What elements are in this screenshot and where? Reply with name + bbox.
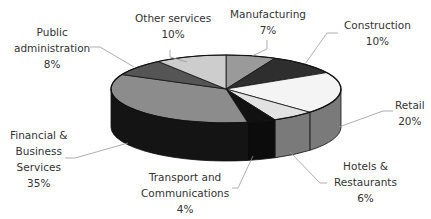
label-hotels-restaurants: Hotels & Restaurants 6%: [334, 158, 397, 206]
label-pct: 7%: [230, 22, 306, 38]
label-text: Communications: [141, 185, 229, 201]
label-pct: 35%: [10, 175, 68, 191]
label-text: Financial &: [10, 127, 68, 143]
label-text: Restaurants: [334, 174, 397, 190]
leader-line-financial: [65, 143, 128, 158]
label-pct: 4%: [141, 201, 229, 217]
label-pct: 10%: [344, 33, 411, 49]
label-text: Other services: [135, 10, 211, 26]
leader-line-manufacturing: [252, 40, 267, 56]
label-text: Services: [10, 159, 68, 175]
pie-side-transport-and-communications: [248, 120, 275, 161]
leader-line-construction: [305, 33, 338, 64]
label-text: Public: [14, 24, 90, 40]
label-text: Construction: [344, 17, 411, 33]
label-manufacturing: Manufacturing 7%: [230, 6, 306, 38]
label-pct: 6%: [334, 190, 397, 206]
label-text: Transport and: [141, 169, 229, 185]
label-transport-communications: Transport and Communications 4%: [141, 169, 229, 217]
label-pct: 20%: [395, 113, 425, 129]
label-text: Manufacturing: [230, 6, 306, 22]
label-financial-business-services: Financial & Business Services 35%: [10, 127, 68, 191]
label-pct: 10%: [135, 26, 211, 42]
label-text: Retail: [395, 97, 425, 113]
label-retail: Retail 20%: [395, 97, 425, 129]
label-text: Hotels &: [334, 158, 397, 174]
label-text: administration: [14, 40, 90, 56]
leader-line-retail: [339, 111, 393, 127]
label-other-services: Other services 10%: [135, 10, 211, 42]
leader-line-public: [90, 47, 134, 67]
label-pct: 8%: [14, 56, 90, 72]
label-public-administration: Public administration 8%: [14, 24, 90, 72]
pie-top-slices: [111, 55, 341, 123]
label-text: Business: [10, 143, 68, 159]
label-construction: Construction 10%: [344, 17, 411, 49]
leader-line-hotels: [290, 152, 327, 183]
